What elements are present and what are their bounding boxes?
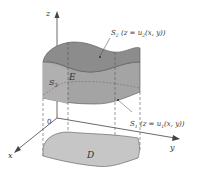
solid-region-diagram: z 0 x y E D S3 S2 (z = u2(x, y)) S1 (z =… — [0, 0, 203, 182]
origin-label: 0 — [47, 118, 51, 126]
top-surface-label: S2 (z = u2(x, y)) — [111, 29, 166, 38]
solid-label-e: E — [68, 72, 76, 82]
x-axis-label: x — [8, 151, 13, 160]
base-label-d: D — [86, 150, 94, 160]
s1-leader — [118, 100, 132, 112]
z-axis-label: z — [45, 9, 51, 18]
bottom-surface-label: S1 (z = u1(x, y)) — [130, 120, 185, 129]
y-axis-label: y — [169, 143, 175, 152]
